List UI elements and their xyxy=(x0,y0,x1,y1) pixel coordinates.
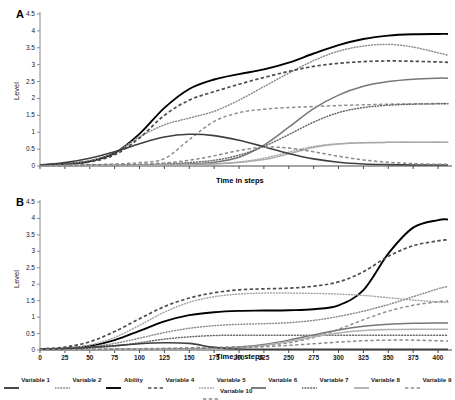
series-line-variable-2 xyxy=(40,287,448,350)
legend-swatch-solid-icon xyxy=(251,377,266,383)
panel-b-x-tick-label: 225 xyxy=(251,354,277,361)
panel-b-x-tick-label: 200 xyxy=(226,354,252,361)
legend-label: Variable 8 xyxy=(371,376,400,383)
panel-b-y-tick-label: 2.5 xyxy=(11,264,35,271)
panel-b-x-tick-label: 400 xyxy=(425,354,451,361)
panel-b-x-tick-label: 75 xyxy=(102,354,128,361)
panel-a-y-tick-label: 0 xyxy=(11,162,35,169)
legend-label: Variable 4 xyxy=(165,376,194,383)
panel-b-y-tick-label: 4 xyxy=(11,214,35,221)
legend-label: Variable 9 xyxy=(422,376,451,383)
legend-swatch-solid-icon xyxy=(354,377,369,383)
legend-item-variable-10[interactable]: Variable 10 xyxy=(203,387,253,394)
panel-a-y-tick-label: 0.5 xyxy=(11,145,35,152)
chart-legend: Variable 1Variable 2AbilityVariable 4Var… xyxy=(0,374,455,396)
panel-a-y-tick-label: 3 xyxy=(11,61,35,68)
panel-b-x-tick-label: 25 xyxy=(52,354,78,361)
panel-b-svg xyxy=(0,190,455,372)
legend-swatch-dotted-icon xyxy=(302,377,317,383)
panel-b-x-tick-label: 100 xyxy=(127,354,153,361)
legend-label: Variable 2 xyxy=(73,376,102,383)
panel-b-plot-area xyxy=(0,190,455,372)
panel-b-x-tick-label: 275 xyxy=(301,354,327,361)
legend-label: Variable 10 xyxy=(220,387,252,394)
legend-swatch-dotted-icon xyxy=(199,377,214,383)
panel-b-y-tick-label: 3 xyxy=(11,247,35,254)
panel-b-x-tick-label: 300 xyxy=(326,354,352,361)
legend-swatch-dashed-icon xyxy=(405,377,420,383)
legend-label: Variable 1 xyxy=(21,376,50,383)
legend-label: Ability xyxy=(124,376,143,383)
panel-a-y-tick-label: 3.5 xyxy=(11,44,35,51)
panel-b-x-tick-label: 125 xyxy=(151,354,177,361)
panel-a: A Level Time in steps 00.511.522.533.544… xyxy=(0,0,455,190)
panel-a-y-tick-label: 4.5 xyxy=(11,10,35,17)
series-line-variable-7 xyxy=(40,104,448,166)
panel-b: B Level Time in steps 00.511.522.533.544… xyxy=(0,190,455,370)
panel-b-x-tick-label: 325 xyxy=(350,354,376,361)
series-line-variable-5 xyxy=(40,293,448,349)
panel-a-plot-area xyxy=(0,0,455,188)
legend-item-variable-9[interactable]: Variable 9 xyxy=(405,376,451,383)
series-line-variable-6 xyxy=(40,78,448,166)
legend-item-variable-2[interactable]: Variable 2 xyxy=(55,376,101,383)
panel-b-y-tick-label: 3.5 xyxy=(11,231,35,238)
panel-b-y-tick-label: 0 xyxy=(11,346,35,353)
panel-a-y-tick-label: 2 xyxy=(11,94,35,101)
panel-a-svg xyxy=(0,0,455,188)
panel-b-y-tick-label: 4.5 xyxy=(11,198,35,205)
legend-item-ability[interactable]: Ability xyxy=(106,376,142,383)
panel-b-x-tick-label: 375 xyxy=(400,354,426,361)
panel-b-y-tick-label: 0.5 xyxy=(11,330,35,337)
legend-item-variable-4[interactable]: Variable 4 xyxy=(148,376,194,383)
legend-label: Variable 6 xyxy=(268,376,297,383)
legend-label: Variable 7 xyxy=(320,376,349,383)
legend-swatch-dotted-icon xyxy=(55,377,70,383)
legend-item-variable-8[interactable]: Variable 8 xyxy=(354,376,400,383)
panel-a-x-axis-label: Time in steps xyxy=(216,176,264,185)
panel-b-x-tick-label: 250 xyxy=(276,354,302,361)
panel-b-x-tick-label: 350 xyxy=(375,354,401,361)
panel-a-y-tick-label: 1 xyxy=(11,128,35,135)
legend-swatch-solid-icon xyxy=(106,377,121,383)
legend-swatch-dashed-icon xyxy=(203,388,218,394)
legend-swatch-solid-icon xyxy=(4,377,19,383)
legend-item-variable-5[interactable]: Variable 5 xyxy=(199,376,245,383)
panel-b-y-tick-label: 1.5 xyxy=(11,297,35,304)
panel-b-y-tick-label: 2 xyxy=(11,280,35,287)
legend-label: Variable 5 xyxy=(217,376,246,383)
series-line-ability xyxy=(40,34,448,165)
legend-item-variable-6[interactable]: Variable 6 xyxy=(251,376,297,383)
figure-root: A Level Time in steps 00.511.522.533.544… xyxy=(0,0,455,400)
panel-b-x-tick-label: 175 xyxy=(201,354,227,361)
panel-b-y-tick-label: 1 xyxy=(11,313,35,320)
panel-b-x-tick-label: 50 xyxy=(77,354,103,361)
legend-item-variable-7[interactable]: Variable 7 xyxy=(302,376,348,383)
panel-a-y-tick-label: 2.5 xyxy=(11,78,35,85)
panel-b-x-tick-label: 150 xyxy=(176,354,202,361)
legend-item-variable-1[interactable]: Variable 1 xyxy=(4,376,50,383)
panel-a-y-tick-label: 4 xyxy=(11,27,35,34)
legend-swatch-dashed-icon xyxy=(148,377,163,383)
panel-a-y-tick-label: 1.5 xyxy=(11,111,35,118)
panel-b-x-tick-label: 0 xyxy=(27,354,53,361)
